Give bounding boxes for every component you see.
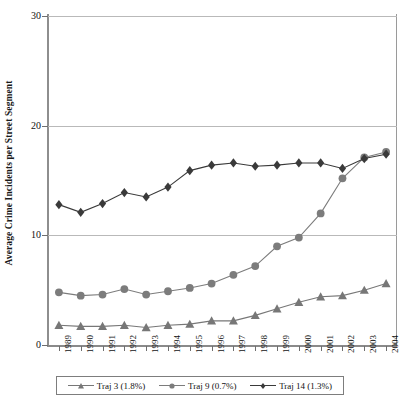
legend-label: Traj 3 (1.8%) <box>96 381 145 391</box>
data-point-1996 <box>208 280 216 288</box>
x-tick-mark-1995 <box>190 346 191 351</box>
y-tick-mark-20 <box>42 126 48 127</box>
x-tick-label-text: 1997 <box>238 335 247 353</box>
legend-marker-diamond-icon <box>250 380 276 392</box>
legend-symbol <box>259 382 267 390</box>
x-tick-mark-2001 <box>321 346 322 351</box>
x-tick-mark-1996 <box>212 346 213 351</box>
x-tick-label-text: 2000 <box>304 335 313 353</box>
data-point-1991 <box>99 291 107 299</box>
data-point-1995 <box>185 320 194 328</box>
y-tick-label-20: 20 <box>17 121 41 131</box>
legend-entry-1[interactable]: Traj 3 (1.8%) <box>68 380 145 392</box>
data-point-1995 <box>186 284 194 292</box>
x-tick-mark-2004 <box>386 346 387 351</box>
data-point-1990 <box>76 322 85 330</box>
x-tick-label-text: 1993 <box>151 335 160 353</box>
x-tick-label-text: 1999 <box>282 335 291 353</box>
x-tick-label-text: 1998 <box>260 335 269 353</box>
y-tick-mark-0 <box>42 345 48 346</box>
data-point-1999 <box>273 161 280 170</box>
data-point-2001 <box>316 292 325 300</box>
legend-entry-2[interactable]: Traj 9 (0.7%) <box>159 380 236 392</box>
data-point-2001 <box>317 158 324 167</box>
data-point-1994 <box>164 182 171 191</box>
series-line <box>59 152 386 296</box>
data-point-1989 <box>54 321 63 329</box>
y-tick-label-0: 0 <box>17 340 41 350</box>
y-tick-mark-30 <box>42 16 48 17</box>
data-point-1999 <box>273 242 281 250</box>
x-tick-mark-1998 <box>255 346 256 351</box>
legend-entry-3[interactable]: Traj 14 (1.3%) <box>250 380 332 392</box>
data-point-1996 <box>207 316 216 324</box>
legend-label: Traj 14 (1.3%) <box>278 381 332 391</box>
x-tick-label-text: 1995 <box>195 335 204 353</box>
series-traj-3-1-8 <box>54 279 390 331</box>
x-tick-label-text: 1994 <box>173 335 182 353</box>
x-tick-label-text: 2002 <box>347 335 356 353</box>
x-tick-label-text: 1991 <box>108 335 117 353</box>
gridline-y-10 <box>48 235 397 236</box>
data-point-1996 <box>208 161 215 170</box>
x-tick-label-2004: 2004 <box>381 353 395 387</box>
series-traj-14-1-3 <box>55 150 389 217</box>
x-tick-label-text: 1996 <box>217 335 226 353</box>
y-axis-line <box>47 14 49 347</box>
data-point-1991 <box>99 199 106 208</box>
data-point-1998 <box>251 262 259 270</box>
chart-figure: Average Crime Incidents per Street Segme… <box>0 0 410 407</box>
data-point-1995 <box>186 166 193 175</box>
x-tick-label-text: 1992 <box>129 335 138 353</box>
gridline-y-30 <box>48 16 397 17</box>
legend-marker-circle-icon <box>159 380 185 392</box>
data-point-1991 <box>98 322 107 330</box>
y-axis-title: Average Crime Incidents per Street Segme… <box>0 0 18 345</box>
legend-symbol <box>77 382 85 390</box>
x-tick-mark-2003 <box>364 346 365 351</box>
bottom-caption-clipped <box>0 399 410 407</box>
x-tick-mark-2000 <box>299 346 300 351</box>
chart-legend: Traj 3 (1.8%)Traj 9 (0.7%)Traj 14 (1.3%) <box>56 376 344 395</box>
data-point-1997 <box>229 316 238 324</box>
data-point-1993 <box>142 291 150 299</box>
data-point-2000 <box>295 158 302 167</box>
x-tick-mark-1991 <box>103 346 104 351</box>
data-point-2003 <box>361 154 368 163</box>
x-tick-mark-1997 <box>233 346 234 351</box>
x-tick-label-text: 2004 <box>391 335 400 353</box>
data-point-1999 <box>273 304 282 312</box>
legend-symbol <box>168 382 176 390</box>
y-tick-label-10: 10 <box>17 230 41 240</box>
x-tick-label-text: 2003 <box>369 335 378 353</box>
x-tick-label-text: 1989 <box>64 335 73 353</box>
series-traj-9-0-7 <box>55 148 390 299</box>
y-tick-label-30: 30 <box>17 11 41 21</box>
x-tick-mark-1989 <box>59 346 60 351</box>
gridline-y-20 <box>48 126 397 127</box>
series-line <box>59 284 386 328</box>
data-point-1998 <box>251 311 260 319</box>
data-point-2001 <box>317 210 325 218</box>
x-tick-label-text: 2001 <box>326 335 335 353</box>
data-point-1993 <box>143 192 150 201</box>
data-point-1992 <box>120 285 128 293</box>
data-point-1990 <box>77 292 85 300</box>
data-point-2002 <box>339 164 346 173</box>
data-point-1997 <box>230 271 238 279</box>
x-tick-label-text: 1990 <box>86 335 95 353</box>
data-point-2004 <box>382 148 390 156</box>
data-point-2003 <box>360 154 368 162</box>
y-tick-mark-10 <box>42 235 48 236</box>
data-point-2002 <box>338 291 347 299</box>
x-tick-mark-1994 <box>168 346 169 351</box>
data-point-1992 <box>121 188 128 197</box>
data-point-2002 <box>339 174 347 182</box>
series-line <box>59 154 386 212</box>
data-point-1993 <box>142 323 151 331</box>
data-point-1990 <box>77 208 84 217</box>
data-point-1992 <box>120 321 129 329</box>
y-axis-title-text: Average Crime Incidents per Street Segme… <box>4 80 14 265</box>
data-point-1997 <box>230 158 237 167</box>
legend-label: Traj 9 (0.7%) <box>187 381 236 391</box>
